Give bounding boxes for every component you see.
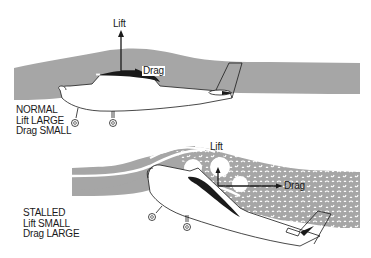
stalled-lift-label: Lift — [210, 142, 223, 152]
airflow-diagram: Lift Drag NORMAL Lift LARGE Drag SMALL L… — [0, 0, 371, 258]
stalled-drag-label: Drag — [284, 181, 305, 191]
normal-title: NORMAL — [16, 105, 71, 116]
normal-drag-label: Drag — [142, 66, 165, 76]
normal-drag-text: Drag SMALL — [16, 126, 71, 137]
stalled-title: STALLED — [23, 208, 79, 219]
normal-lift-label: Lift — [113, 19, 126, 29]
stalled-caption: STALLED Lift SMALL Drag LARGE — [23, 208, 79, 240]
stalled-drag-text: Drag LARGE — [23, 229, 79, 240]
normal-caption: NORMAL Lift LARGE Drag SMALL — [16, 105, 71, 137]
